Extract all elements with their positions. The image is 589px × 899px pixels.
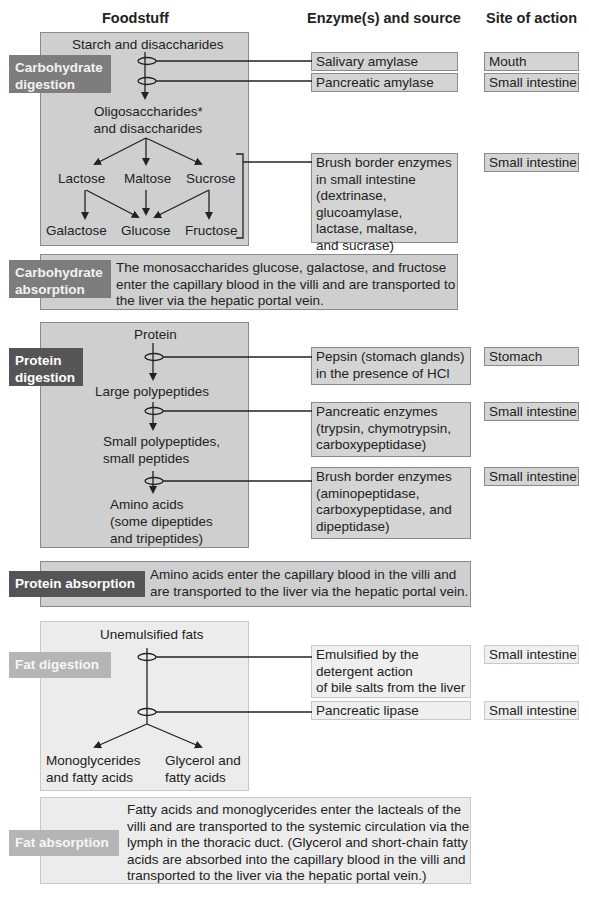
node-line: Glycerol and (165, 752, 241, 769)
header-foodstuff: Foodstuff (102, 10, 169, 26)
node-glucose: Glucose (121, 222, 171, 239)
text-line: Fatty acids and monoglycerides enter the… (127, 802, 469, 819)
node-amino-acids: Amino acids (some dipeptides and tripept… (110, 496, 213, 547)
enzyme-pancreatic-lipase: Pancreatic lipase (311, 701, 471, 720)
label-line: absorption (15, 281, 105, 298)
enzyme-salivary-amylase: Salivary amylase (311, 52, 458, 71)
carbohydrate-digestion-label: Carbohydrate digestion (9, 55, 111, 93)
text-line: transported to the liver via the hepatic… (127, 868, 469, 885)
text-line: acids are absorbed into the capillary bl… (127, 852, 469, 869)
enzyme-line: Pepsin (stomach glands) (316, 349, 466, 366)
site-small-intestine: Small intestine (484, 467, 579, 486)
node-starch: Starch and disaccharides (72, 36, 224, 53)
enzyme-brush-border-carb: Brush border enzymes in small intestine … (311, 153, 458, 243)
enzyme-line: carboxypeptidase, and (316, 502, 466, 519)
node-monoglycerides: Monoglycerides and fatty acids (46, 752, 141, 786)
header-site-of-action: Site of action (486, 10, 577, 26)
label-line: Carbohydrate (15, 264, 105, 281)
enzyme-line: Brush border enzymes (316, 155, 453, 172)
enzyme-line: in the presence of HCl (316, 366, 466, 383)
fat-digestion-label: Fat digestion (9, 652, 111, 678)
enzyme-line: and sucrase) (316, 238, 453, 255)
site-stomach: Stomach (484, 347, 579, 366)
enzyme-brush-border-protein: Brush border enzymes (aminopeptidase, ca… (311, 467, 471, 539)
site-small-intestine: Small intestine (484, 645, 579, 664)
site-small-intestine: Small intestine (484, 701, 579, 720)
text-line: are transported to the liver via the hep… (150, 584, 468, 601)
protein-absorption-text: Amino acids enter the capillary blood in… (150, 567, 468, 600)
text-line: lymph in the thoracic duct. (Glycerol an… (127, 835, 469, 852)
node-galactose: Galactose (46, 222, 107, 239)
node-line: Monoglycerides (46, 752, 141, 769)
label-line: Carbohydrate (15, 59, 105, 76)
text-line: villi and are transported to the systemi… (127, 819, 469, 836)
enzyme-line: in small intestine (316, 172, 453, 189)
node-line: and tripeptides) (110, 530, 213, 547)
enzyme-bile-salts: Emulsified by the detergent action of bi… (311, 645, 471, 698)
carbohydrate-absorption-text: The monosaccharides glucose, galactose, … (116, 260, 455, 310)
node-large-polypeptides: Large polypeptides (95, 383, 209, 400)
carbohydrate-absorption-label: Carbohydrate absorption (9, 260, 111, 298)
node-line: Amino acids (110, 496, 213, 513)
enzyme-line: glucoamylase, (316, 205, 453, 222)
node-line: (some dipeptides (110, 513, 213, 530)
protein-absorption-label: Protein absorption (9, 571, 145, 597)
node-protein: Protein (134, 326, 177, 343)
node-line: and fatty acids (46, 769, 141, 786)
label-line: Protein (15, 352, 77, 369)
text-line: Amino acids enter the capillary blood in… (150, 567, 468, 584)
site-small-intestine: Small intestine (484, 402, 579, 421)
header-enzyme-source: Enzyme(s) and source (307, 10, 461, 26)
fat-absorption-text: Fatty acids and monoglycerides enter the… (127, 802, 469, 885)
protein-digestion-label: Protein digestion (9, 348, 83, 386)
enzyme-pepsin: Pepsin (stomach glands) in the presence … (311, 347, 471, 385)
fat-absorption-label: Fat absorption (9, 830, 119, 856)
node-line: small peptides (103, 450, 220, 467)
node-line: Small polypeptides, (103, 433, 220, 450)
enzyme-line: (dextrinase, (316, 188, 453, 205)
enzyme-line: lactase, maltase, (316, 221, 453, 238)
enzyme-pancreatic-amylase: Pancreatic amylase (311, 73, 458, 92)
enzyme-line: detergent action (316, 664, 466, 681)
enzyme-line: Pancreatic enzymes (316, 404, 466, 421)
text-line: enter the capillary blood in the villi a… (116, 277, 455, 294)
node-unemulsified-fats: Unemulsified fats (100, 626, 204, 643)
enzyme-line: Emulsified by the (316, 647, 466, 664)
node-oligosaccharides: Oligosaccharides* and disaccharides (94, 103, 203, 137)
node-line: and disaccharides (93, 120, 203, 137)
site-small-intestine: Small intestine (484, 73, 579, 92)
node-glycerol: Glycerol and fatty acids (165, 752, 241, 786)
enzyme-line: of bile salts from the liver (316, 680, 466, 697)
enzyme-line: Brush border enzymes (316, 469, 466, 486)
node-small-polypeptides: Small polypeptides, small peptides (103, 433, 220, 467)
site-small-intestine: Small intestine (484, 153, 579, 172)
text-line: the liver via the hepatic portal vein. (116, 293, 455, 310)
site-mouth: Mouth (484, 52, 579, 71)
label-line: digestion (15, 369, 77, 386)
node-maltose: Maltose (124, 170, 171, 187)
label-line: digestion (15, 76, 105, 93)
node-sucrose: Sucrose (186, 170, 236, 187)
node-line: fatty acids (165, 769, 241, 786)
node-line: Oligosaccharides* (94, 103, 203, 120)
text-line: The monosaccharides glucose, galactose, … (116, 260, 455, 277)
node-lactose: Lactose (58, 170, 105, 187)
node-fructose: Fructose (185, 222, 238, 239)
enzyme-line: carboxypeptidase) (316, 437, 466, 454)
enzyme-pancreatic-enzymes: Pancreatic enzymes (trypsin, chymotrypsi… (311, 402, 471, 457)
enzyme-line: (trypsin, chymotrypsin, (316, 421, 466, 438)
enzyme-line: (aminopeptidase, (316, 486, 466, 503)
enzyme-line: dipeptidase) (316, 519, 466, 536)
